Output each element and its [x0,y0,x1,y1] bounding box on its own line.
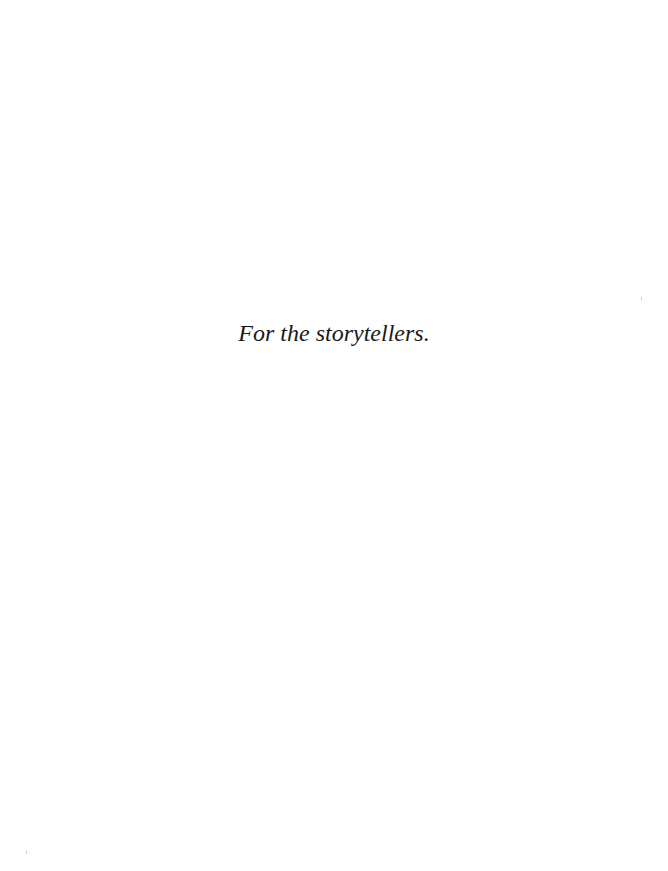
book-page: For the storytellers. [0,0,668,871]
scan-artifact [26,851,27,854]
scan-artifact [641,297,642,300]
dedication-text: For the storytellers. [0,319,668,347]
